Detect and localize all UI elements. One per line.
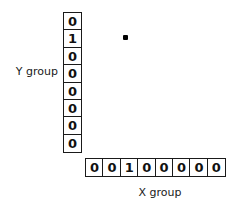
y-group-cell: 0	[63, 12, 82, 31]
y-group-cell-column: 01000000	[63, 12, 82, 153]
y-group-cell: 0	[63, 47, 82, 66]
y-group-cell: 1	[63, 29, 82, 48]
x-group-cell: 0	[102, 158, 121, 177]
y-group-label: Y group	[0, 65, 58, 78]
x-group-cell: 0	[189, 158, 208, 177]
x-group-cell-row: 00100000	[85, 158, 226, 177]
x-group-label: X group	[95, 186, 225, 199]
x-group-cell: 1	[120, 158, 139, 177]
y-group-cell: 0	[63, 82, 82, 101]
bitstring-groups-diagram: Y group 01000000 00100000 X group	[0, 0, 247, 211]
x-group-cell: 0	[137, 158, 156, 177]
x-group-cell: 0	[85, 158, 104, 177]
y-group-cell: 0	[63, 64, 82, 83]
x-group-cell: 0	[155, 158, 174, 177]
x-group-cell: 0	[207, 158, 226, 177]
dot-marker-icon	[123, 35, 128, 40]
y-group-cell: 0	[63, 116, 82, 135]
y-group-cell: 0	[63, 134, 82, 153]
y-group-cell: 0	[63, 99, 82, 118]
x-group-cell: 0	[172, 158, 191, 177]
